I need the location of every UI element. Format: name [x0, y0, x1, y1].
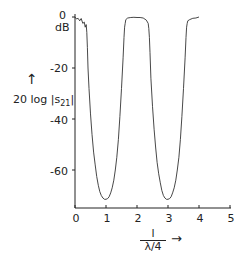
- s21-curve: [75, 17, 199, 199]
- x-tick-label: 3: [162, 213, 176, 224]
- x-axis-label-denominator: λ/4: [140, 241, 166, 253]
- y-tick-label: -40: [38, 115, 68, 126]
- x-tick-label: 5: [224, 213, 238, 224]
- x-tick-label: 1: [100, 213, 114, 224]
- y-tick-label: -60: [38, 166, 68, 177]
- x-tick-label: 2: [131, 213, 145, 224]
- y-axis-label: 20 log |s21|: [13, 94, 74, 109]
- y-tick-label: -20: [38, 63, 68, 74]
- y-tick-label: 0: [36, 10, 66, 21]
- x-tick-label: 4: [193, 213, 207, 224]
- y-axis-arrow-icon: ↑: [26, 74, 38, 85]
- y-unit-label: dB: [55, 22, 70, 33]
- x-axis-arrow-icon: →: [171, 233, 182, 244]
- axes: [72, 14, 231, 208]
- x-axis-label: l λ/4: [140, 228, 166, 253]
- x-tick-label: 0: [69, 213, 83, 224]
